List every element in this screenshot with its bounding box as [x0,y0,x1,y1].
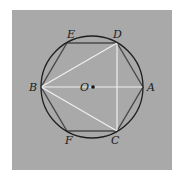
segment-bd [41,43,117,87]
label-d: D [112,28,122,41]
label-a: A [146,81,155,94]
center-point-o [91,85,95,89]
segment-bc [41,87,117,131]
geometry-diagram: ABCDEFO [0,0,181,178]
label-e: E [66,28,75,41]
label-c: C [111,134,120,147]
label-o: O [80,81,89,94]
label-f: F [64,134,73,147]
label-b: B [28,81,37,94]
